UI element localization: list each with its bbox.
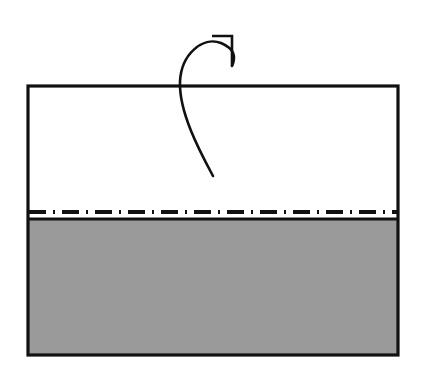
lower-panel	[28, 219, 398, 355]
figure-canvas: Paper folding step diagram Rectangular s…	[0, 0, 423, 385]
paper-folding-diagram: Paper folding step diagram Rectangular s…	[0, 0, 423, 385]
upper-panel	[28, 86, 398, 219]
